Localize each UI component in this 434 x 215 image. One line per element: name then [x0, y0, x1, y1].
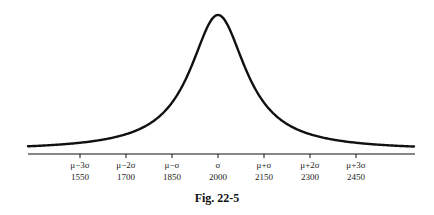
- x-tick-value: 2450: [347, 172, 366, 182]
- x-tick-symbol: μ−2σ: [116, 160, 135, 170]
- figure-caption: Fig. 22-5: [0, 191, 434, 206]
- distribution-chart: μ−3σ1550μ−2σ1700μ−σ1850σ2000μ+σ2150μ+2σ2…: [0, 0, 434, 190]
- x-axis-ticks: μ−3σ1550μ−2σ1700μ−σ1850σ2000μ+σ2150μ+2σ2…: [70, 154, 365, 182]
- x-tick-value: 1700: [117, 172, 136, 182]
- x-tick-symbol: μ+3σ: [346, 160, 365, 170]
- x-tick-symbol: μ−3σ: [70, 160, 89, 170]
- x-tick-value: 2300: [301, 172, 320, 182]
- x-tick-symbol: μ+2σ: [300, 160, 319, 170]
- x-tick-value: 1550: [71, 172, 90, 182]
- x-tick-value: 1850: [163, 172, 182, 182]
- x-tick-value: 2000: [209, 172, 228, 182]
- x-tick-symbol: μ−σ: [165, 160, 180, 170]
- x-tick-symbol: μ+σ: [257, 160, 272, 170]
- distribution-curve: [28, 15, 414, 147]
- x-tick-value: 2150: [255, 172, 274, 182]
- x-tick-symbol: σ: [216, 160, 221, 170]
